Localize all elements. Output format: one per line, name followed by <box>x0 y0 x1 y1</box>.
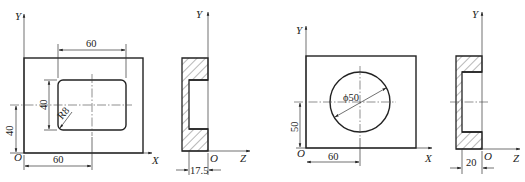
z-axis-label: Z <box>513 152 520 164</box>
dim-center-y: 40 <box>4 126 15 137</box>
z-axis-label: Z <box>240 152 247 164</box>
dim-pocket-depth: 17.5 <box>190 165 208 176</box>
dim-center-y: 50 <box>289 122 300 133</box>
view3-front-circular-pocket: Y X O ϕ50 50 60 <box>289 24 433 166</box>
dim-pocket-depth: 20 <box>466 157 477 168</box>
section-hatch <box>456 56 482 149</box>
x-axis-label: X <box>151 154 160 166</box>
view4-side-section: Y Z O 20 <box>450 8 520 174</box>
dim-center-x: 60 <box>53 154 64 165</box>
dim-center-x: 60 <box>328 151 339 162</box>
y-axis-label: Y <box>472 8 480 20</box>
x-axis-label: X <box>424 152 433 164</box>
dim-pocket-width: 60 <box>86 38 97 49</box>
view1-front-rect-pocket: Y X O 60 40 R8 40 60 <box>4 10 160 170</box>
origin-label: O <box>210 152 218 164</box>
y-axis-label: Y <box>15 10 23 22</box>
dim-diameter: ϕ50 <box>343 92 359 103</box>
y-axis-label: Y <box>296 24 304 36</box>
y-axis-label: Y <box>196 8 204 20</box>
technical-drawing: Y X O 60 40 R8 40 60 Y <box>0 0 525 182</box>
origin-label: O <box>484 150 492 162</box>
dim-pocket-height: 40 <box>38 100 49 111</box>
origin-label: O <box>297 147 305 159</box>
section-hatch <box>182 58 208 151</box>
origin-label: O <box>14 151 22 163</box>
view2-side-section: Y Z O 17.5 <box>176 8 250 176</box>
